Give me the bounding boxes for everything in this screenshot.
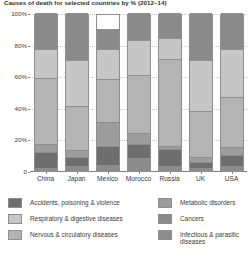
stacked-bar	[127, 14, 151, 172]
legend-item: Respiratory & digestive diseases	[8, 214, 158, 224]
legend-swatch	[8, 230, 22, 240]
x-axis-tick-mark	[201, 172, 202, 174]
stacked-bar	[65, 14, 89, 172]
bar-segment	[221, 49, 243, 96]
bar-segment	[66, 166, 88, 171]
bar-segment	[128, 133, 150, 144]
bar-segment	[35, 144, 57, 152]
x-axis-tick-mark	[139, 172, 140, 174]
stacked-bar	[158, 14, 182, 172]
legend-label: Cancers	[180, 214, 204, 222]
legend-item: Accidents, poisoning & violence	[8, 198, 158, 208]
bar-segment	[97, 49, 119, 79]
bar-segment	[97, 146, 119, 165]
y-axis-tick-label: 80%	[1, 42, 27, 50]
legend-swatch	[158, 198, 172, 208]
chart-title: Causes of death for selected countries b…	[4, 0, 251, 7]
bar-segment	[97, 122, 119, 146]
bar-segment	[35, 168, 57, 171]
bar-segment	[190, 13, 212, 60]
legend-label: Metabolic disorders	[180, 198, 235, 206]
bar-segment	[159, 13, 181, 38]
x-axis-tick-mark	[170, 172, 171, 174]
legend-item: Cancers	[158, 214, 251, 224]
y-axis-tick-label: 20%	[1, 136, 27, 144]
legend-column-right: Metabolic disordersCancersInfectious & p…	[158, 198, 251, 252]
bar-segment	[159, 146, 181, 149]
legend-item: Metabolic disorders	[158, 198, 251, 208]
y-axis-tick-label: 100%	[1, 10, 27, 18]
bar-segment	[159, 38, 181, 59]
bar-segment	[128, 40, 150, 75]
stacked-bar	[189, 14, 213, 172]
y-axis-tick-label: 0	[1, 168, 27, 176]
bar-segment	[128, 75, 150, 133]
bar-segment	[190, 157, 212, 162]
bar-segment	[35, 152, 57, 168]
x-axis-tick-mark	[108, 172, 109, 174]
x-axis-label-morocco: Morocco	[122, 174, 156, 184]
bar-segment	[66, 60, 88, 106]
bar-segment	[190, 162, 212, 168]
stacked-bar	[34, 14, 58, 172]
legend-label: Nervous & circulatory diseases	[30, 230, 118, 238]
bar-segment	[159, 59, 181, 146]
legend-label: Accidents, poisoning & violence	[30, 198, 120, 206]
x-axis-tick-mark	[77, 172, 78, 174]
bar-segment	[190, 168, 212, 171]
x-axis-label-china: China	[29, 174, 63, 184]
bar-segment	[128, 144, 150, 158]
x-axis-label-usa: USA	[215, 174, 249, 184]
stacked-bar	[96, 14, 120, 172]
legend-swatch	[8, 214, 22, 224]
legend-item: Infectious & parasitic diseases	[158, 230, 251, 246]
bar-segment	[221, 166, 243, 171]
legend-swatch	[158, 214, 172, 224]
legend-swatch	[8, 198, 22, 208]
legend-column-left: Accidents, poisoning & violenceRespirato…	[8, 198, 158, 246]
bar-segment	[35, 13, 57, 49]
x-axis-label-russia: Russia	[153, 174, 187, 184]
bar-segment	[97, 165, 119, 171]
chart-container: Causes of death for selected countries b…	[0, 0, 251, 257]
bar-segment	[66, 150, 88, 156]
y-axis-tick-label: 40%	[1, 105, 27, 113]
bar-segment	[190, 60, 212, 111]
legend-label: Respiratory & digestive diseases	[30, 214, 123, 222]
chart-legend: Accidents, poisoning & violenceRespirato…	[4, 198, 251, 256]
bar-segment	[66, 157, 88, 166]
bar-segment	[221, 13, 243, 49]
bar-segment	[221, 155, 243, 166]
legend-swatch	[158, 230, 172, 240]
bar-segment	[66, 13, 88, 60]
bar-segment	[221, 147, 243, 155]
legend-label: Infectious & parasitic diseases	[180, 230, 251, 246]
bar-segment	[159, 149, 181, 166]
bar-segment	[159, 166, 181, 171]
bar-segment	[35, 78, 57, 144]
legend-item: Nervous & circulatory diseases	[8, 230, 158, 240]
plot-area	[30, 14, 247, 172]
bar-segment	[97, 29, 119, 50]
y-axis-tick-mark	[28, 172, 30, 173]
bar-segment	[66, 106, 88, 150]
x-axis-label-uk: UK	[184, 174, 218, 184]
bar-segment	[128, 158, 150, 171]
x-axis-labels: ChinaJapanMexicoMoroccoRussiaUKUSA	[30, 174, 247, 186]
x-axis-label-mexico: Mexico	[91, 174, 125, 184]
y-axis: 020%40%60%80%100%	[0, 8, 30, 178]
bar-segment	[35, 49, 57, 77]
bar-segment	[128, 13, 150, 40]
x-axis-tick-mark	[232, 172, 233, 174]
y-axis-tick-label: 60%	[1, 73, 27, 81]
x-axis-label-japan: Japan	[60, 174, 94, 184]
stacked-bar	[220, 14, 244, 172]
bar-segment	[97, 79, 119, 122]
bar-segment	[221, 97, 243, 148]
x-axis-tick-mark	[46, 172, 47, 174]
bar-segment	[190, 111, 212, 157]
